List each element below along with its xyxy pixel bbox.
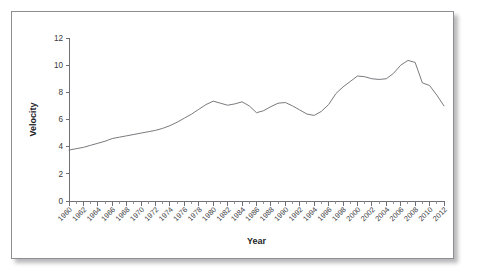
y-tick-label: 0	[58, 197, 63, 206]
x-tick-label: 1960	[56, 205, 74, 223]
x-tick-label: 2000	[344, 205, 362, 223]
x-tick-label: 2006	[388, 205, 406, 223]
x-tick-label: 2008	[402, 205, 420, 223]
x-tick-label: 1966	[99, 205, 117, 223]
chart-plot-area: 024681012 196019621964196619681970197219…	[12, 12, 453, 258]
x-tick-label: 1998	[330, 205, 348, 223]
x-tick-label: 1992	[287, 205, 305, 223]
x-tick-label: 1990	[272, 205, 290, 223]
x-tick-label: 1974	[157, 205, 175, 223]
x-tick-label: 1994	[301, 205, 319, 223]
x-tick-label: 1986	[243, 205, 261, 223]
y-axis: 024681012	[54, 34, 69, 206]
x-tick-label: 1968	[114, 205, 132, 223]
x-tick-label: 1970	[128, 205, 146, 223]
x-tick-label: 1976	[171, 205, 189, 223]
velocity-line-chart: 024681012 196019621964196619681970197219…	[12, 12, 455, 260]
velocity-line-path	[69, 60, 444, 150]
x-tick-label: 1984	[229, 205, 247, 223]
x-axis-title: Year	[247, 236, 267, 246]
y-tick-label: 2	[58, 170, 63, 179]
y-tick-label: 6	[58, 115, 63, 124]
chart-card: 024681012 196019621964196619681970197219…	[11, 11, 454, 259]
x-tick-label: 2002	[359, 205, 377, 223]
data-series-velocity	[69, 60, 444, 150]
x-tick-label: 2004	[373, 205, 391, 223]
x-tick-label: 2012	[431, 205, 449, 223]
y-tick-label: 12	[54, 34, 64, 43]
x-tick-label: 1964	[85, 205, 103, 223]
x-tick-label: 1996	[316, 205, 334, 223]
x-tick-label: 1978	[186, 205, 204, 223]
x-tick-label: 1988	[258, 205, 276, 223]
y-axis-title: Velocity	[28, 102, 38, 136]
x-tick-label: 1962	[70, 205, 88, 223]
y-tick-label: 8	[58, 88, 63, 97]
y-tick-label: 4	[58, 142, 63, 151]
x-tick-label: 1982	[215, 205, 233, 223]
y-tick-label: 10	[54, 61, 64, 70]
x-tick-label: 2010	[416, 205, 434, 223]
x-tick-label: 1980	[200, 205, 218, 223]
x-tick-label: 1972	[142, 205, 160, 223]
x-axis: 1960196219641966196819701972197419761978…	[56, 201, 449, 223]
